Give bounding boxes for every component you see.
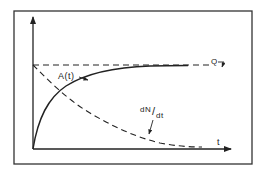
a-of-t-curve — [33, 66, 188, 150]
t-axis-label: t — [217, 138, 220, 147]
dn-dt-label-numerator: dN — [140, 105, 151, 114]
dn-dt-leader-arrow — [149, 120, 153, 134]
diagram-canvas — [0, 0, 266, 173]
q-hook-arrow — [218, 62, 224, 67]
dn-dt-label-denominator: dt — [156, 111, 164, 120]
q-label: Q — [211, 57, 218, 66]
a-of-t-label: A(t) — [58, 72, 75, 81]
